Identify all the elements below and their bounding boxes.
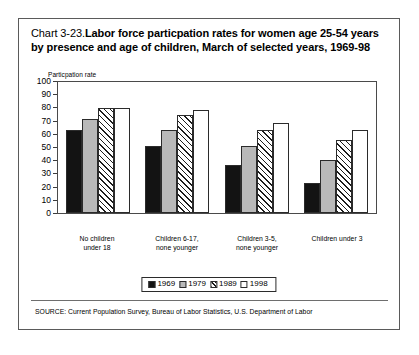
y-axis-tick-label: 20 [42,182,51,191]
bar-1979-2[interactable] [161,130,177,213]
legend-swatch-icon-1979 [179,281,186,288]
source-divider [31,300,388,301]
y-axis-tick-label: 80 [42,103,51,112]
bar-1989-4[interactable] [336,140,352,213]
bar-group [297,82,377,213]
x-axis-label-line: under 18 [57,243,137,252]
chart-legend: 1969197919891998 [141,277,276,292]
legend-label: 1979 [188,280,208,288]
bar-group [58,82,138,213]
legend-label: 1998 [250,280,270,288]
bar-1969-2[interactable] [145,146,161,213]
bar-1979-1[interactable] [82,119,98,213]
x-axis-label-1: No childrenunder 18 [57,234,137,252]
y-axis-title: Particpation rate [48,71,96,78]
y-axis-tick-label: 50 [42,143,51,152]
bar-1998-1[interactable] [114,108,130,213]
y-axis-tick-label: 0 [46,209,51,218]
bar-1998-2[interactable] [193,110,209,213]
x-axis-label-3: Children 3-5,none younger [217,234,297,252]
x-axis-label-4: Children under 3 [297,234,377,252]
legend-entry-1989[interactable]: 1989 [210,280,239,288]
plot-wrap: 1009080706050403020100 [31,81,389,231]
legend-swatch-icon-1969 [148,281,155,288]
legend-entry-1969[interactable]: 1969 [148,280,177,288]
bar-1989-1[interactable] [98,108,114,213]
x-axis-label-line: Children under 3 [297,234,377,243]
bar-1989-3[interactable] [257,130,273,213]
y-axis-tick-label: 100 [37,77,51,86]
source-note: SOURCE: Current Population Survey, Burea… [35,307,313,316]
legend-swatch-icon-1998 [241,281,248,288]
legend-entry-1998[interactable]: 1998 [241,280,270,288]
bar-1969-4[interactable] [304,183,320,213]
x-axis-category-labels: No childrenunder 18Children 6-17,none yo… [57,234,377,252]
bar-1969-3[interactable] [225,165,241,213]
bar-1979-4[interactable] [320,160,336,213]
x-axis-label-line: No children [57,234,137,243]
figure-frame: Chart 3-23.Labor force particpation rate… [18,18,400,330]
bar-1979-3[interactable] [241,146,257,213]
bar-1989-2[interactable] [177,115,193,213]
legend-entry-1979[interactable]: 1979 [179,280,208,288]
legend-label: 1989 [219,280,239,288]
x-axis-label-line: none younger [217,243,297,252]
bar-1998-3[interactable] [273,123,289,213]
y-axis-tick-labels: 1009080706050403020100 [31,81,51,214]
y-axis-tick-label: 90 [42,90,51,99]
y-axis-tick-label: 30 [42,169,51,178]
y-axis-tick-label: 40 [42,156,51,165]
x-axis-label-line: Children 6-17, [137,234,217,243]
bar-group [217,82,297,213]
y-axis-tick-label: 10 [42,196,51,205]
bar-1969-1[interactable] [66,130,82,213]
legend-label: 1969 [157,280,177,288]
x-axis-label-2: Children 6-17,none younger [137,234,217,252]
y-axis-tick-label: 70 [42,116,51,125]
x-axis-label-line: none younger [137,243,217,252]
bar-1998-4[interactable] [352,130,368,213]
chart-title-number: Chart 3-23. [31,27,85,39]
y-axis-tick-label: 60 [42,130,51,139]
bar-group [138,82,218,213]
legend-swatch-icon-1989 [210,281,217,288]
chart-title: Chart 3-23.Labor force particpation rate… [31,27,387,54]
bar-groups [58,82,376,213]
plot-area [57,81,377,214]
x-axis-label-line: Children 3-5, [217,234,297,243]
